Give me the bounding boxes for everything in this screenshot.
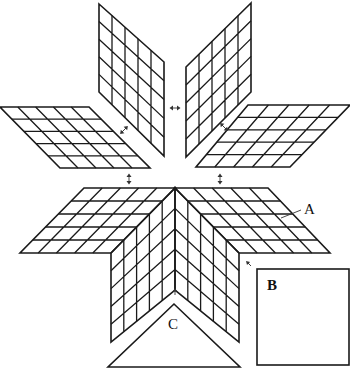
right-diamond: [196, 105, 350, 167]
piece-labels: A B C: [168, 201, 315, 332]
arrow-to-triangle-c: [173, 288, 177, 295]
double-arrow-mid-right: [218, 174, 223, 185]
right-diamond-grid: [206, 105, 338, 167]
top-left-diamond-outline: [99, 4, 164, 156]
setting-pieces: [108, 269, 349, 367]
triangle-c: [108, 304, 240, 367]
right-diamond-outline: [196, 105, 350, 167]
top-left-diamond: [99, 4, 164, 156]
arrow-to-square-b: [244, 259, 252, 267]
label-c: C: [168, 316, 178, 332]
left-diamond: [0, 107, 150, 168]
detached-diamonds: [0, 3, 350, 168]
top-right-diamond-outline: [186, 3, 251, 157]
star-quilt-diagram: A B C: [0, 0, 350, 372]
star-diamond-right-flat-outline: [175, 188, 330, 253]
star-diamond-right-vertical: [175, 188, 239, 342]
double-arrow-mid-left: [127, 174, 132, 185]
label-a: A: [304, 201, 315, 217]
star-diamond-left-flat-outline: [20, 188, 175, 253]
star-diamond-left-flat: [20, 188, 175, 253]
star-diamond-right-vertical-outline: [175, 188, 239, 342]
star-diamond-left-vertical: [111, 188, 175, 342]
star-diamond-left-vertical-outline: [111, 188, 175, 342]
top-right-diamond: [186, 3, 251, 157]
left-diamond-outline: [0, 107, 150, 168]
diagram-svg: A B C: [0, 0, 350, 372]
double-arrow-top-left: [118, 124, 129, 135]
label-b: B: [267, 277, 277, 293]
star-diamond-right-flat: [175, 188, 330, 253]
double-arrow-top-center: [170, 106, 181, 111]
